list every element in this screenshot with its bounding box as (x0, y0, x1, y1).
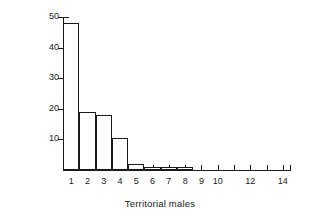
x-tick-6: 6 (153, 170, 154, 171)
x-tick-9: 9 (201, 170, 202, 171)
x-tick-2: 2 (87, 170, 88, 171)
y-tick-50: 50 (63, 17, 64, 18)
bar-4 (112, 138, 128, 170)
x-tick-label: 10 (206, 176, 230, 186)
bar-8 (177, 167, 193, 170)
y-tick-label: 20 (49, 103, 59, 113)
y-tick-label: 50 (49, 11, 59, 21)
bar-5 (128, 164, 144, 170)
x-tick-mark (234, 165, 235, 171)
x-tick-8: 8 (185, 170, 186, 171)
x-tick-mark (283, 165, 284, 171)
x-tick-mark (250, 165, 251, 171)
bar-2 (79, 112, 95, 170)
plot-area: 1020304050 123456789101214 (63, 17, 291, 171)
y-tick-label: 40 (49, 42, 59, 52)
x-tick-mark (218, 165, 219, 171)
x-tick-mark (201, 165, 202, 171)
x-tick-5: 5 (136, 170, 137, 171)
y-tick-label: 10 (49, 133, 59, 143)
x-tick-mark (267, 165, 268, 171)
x-axis-title: Territorial males (0, 198, 320, 209)
x-tick-4: 4 (120, 170, 121, 171)
bar-7 (161, 167, 177, 170)
bar-3 (96, 115, 112, 170)
bar-6 (144, 167, 160, 170)
x-tick-10: 10 (218, 170, 219, 171)
x-tick-14: 14 (283, 170, 284, 171)
x-axis-line (63, 170, 291, 171)
bar-1 (63, 23, 79, 170)
x-tick-13 (267, 170, 268, 171)
x-axis-end-cap (290, 170, 291, 171)
x-tick-label: 14 (271, 176, 295, 186)
x-tick-12: 12 (250, 170, 251, 171)
x-tick-3: 3 (104, 170, 105, 171)
x-axis-title-text: Territorial males (125, 198, 195, 209)
x-tick-11 (234, 170, 235, 171)
y-tick-label: 30 (49, 72, 59, 82)
x-tick-mark (290, 165, 291, 171)
x-tick-label: 12 (238, 176, 262, 186)
histogram-figure: % Copulations 1020304050 123456789101214… (0, 0, 320, 223)
x-tick-7: 7 (169, 170, 170, 171)
x-tick-1: 1 (71, 170, 72, 171)
